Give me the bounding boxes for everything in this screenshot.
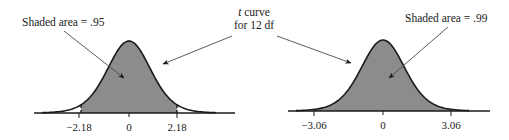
right-area-arrow: [389, 27, 448, 78]
t-curve-arrow-right: [277, 36, 351, 63]
left-shaded-region: [81, 41, 177, 113]
left-shaded-area-label: Shaded area = .95: [22, 16, 105, 28]
right-shaded-region: [315, 40, 451, 111]
t-distribution-figure: −2.18 0 2.18 Shaded area = .95 t curve f…: [0, 0, 509, 140]
right-panel: −3.06 0 3.06 Shaded area = .99: [288, 12, 490, 131]
left-tick-label-upper: 2.18: [167, 121, 187, 133]
left-tick-label-lower: −2.18: [66, 121, 92, 133]
right-tick-label-center: 0: [380, 119, 386, 131]
left-panel: −2.18 0 2.18 Shaded area = .95: [22, 16, 235, 133]
t-curve-label-line1: t curve: [238, 6, 270, 18]
right-shaded-area-label: Shaded area = .99: [405, 12, 488, 24]
left-tick-label-center: 0: [126, 121, 132, 133]
t-curve-label-line2: for 12 df: [234, 19, 274, 31]
right-tick-label-upper: 3.06: [441, 119, 461, 131]
center-label: t curve for 12 df: [163, 6, 351, 64]
right-tick-label-lower: −3.06: [301, 119, 327, 131]
t-curve-arrow-left: [163, 36, 232, 64]
